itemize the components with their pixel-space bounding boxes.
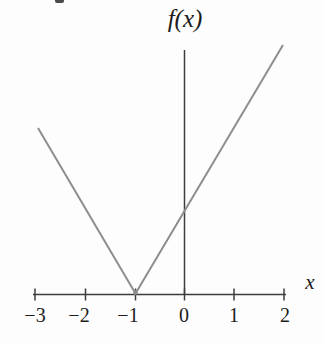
tick-label-2: 2 [280, 304, 290, 326]
tick-label-minus3: −3 [24, 304, 45, 326]
y-axis-label: f(x) [168, 5, 203, 33]
x-axis-label: x [305, 271, 314, 294]
vertex-point [133, 290, 137, 294]
tick-label-minus2: −2 [68, 304, 89, 326]
figure-absolute-value-graph: f(x) x −3 −2 −1 0 1 2 [0, 0, 325, 344]
plot-canvas [0, 0, 325, 344]
tick-label-0: 0 [179, 304, 189, 326]
tick-label-1: 1 [229, 304, 239, 326]
tick-label-minus1: −1 [117, 304, 138, 326]
function-curve [38, 45, 283, 294]
